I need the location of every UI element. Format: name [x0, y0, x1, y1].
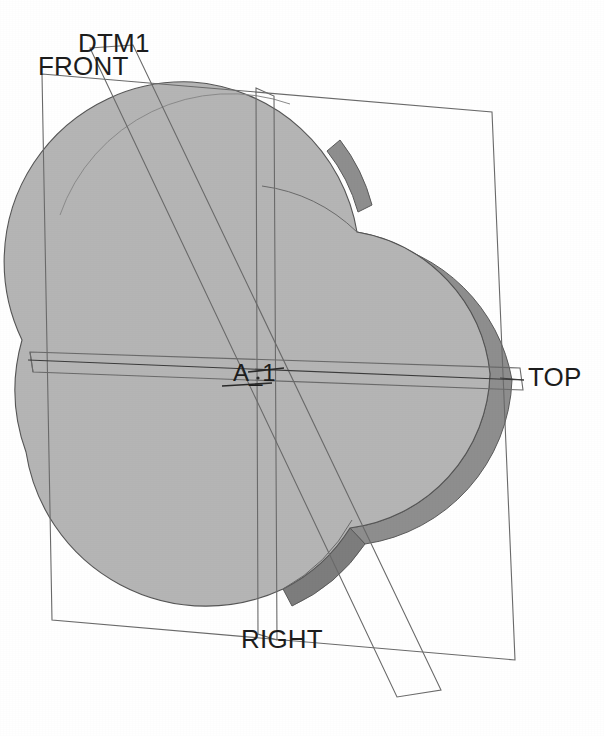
cad-3d-viewport[interactable]: FRONT DTM1 TOP RIGHT A_1 [0, 0, 604, 736]
cad-model-canvas[interactable]: FRONT DTM1 TOP RIGHT A_1 [0, 0, 604, 736]
datum-label-dtm1[interactable]: DTM1 [78, 28, 150, 58]
datum-label-top[interactable]: TOP [528, 362, 582, 392]
axis-label-a1[interactable]: A_1 [233, 359, 276, 386]
datum-label-right[interactable]: RIGHT [241, 624, 323, 654]
